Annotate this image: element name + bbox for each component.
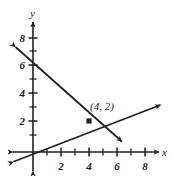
intersection-point-label: (4, 2)	[90, 100, 114, 113]
x-tick-label-2: 2	[57, 160, 64, 172]
steep-line	[16, 47, 122, 142]
y-axis: 2 4 6 8 y	[19, 7, 38, 171]
y-tick-label-2: 2	[19, 115, 26, 127]
y-tick-label-8: 8	[20, 32, 26, 44]
x-tick-label-8: 8	[142, 160, 148, 172]
graph-figure: 2 4 6 8 x 2 4 6 8 y	[0, 0, 173, 179]
x-tick-label-4: 4	[85, 160, 92, 172]
coordinate-plane-svg: 2 4 6 8 x 2 4 6 8 y	[0, 0, 173, 179]
x-axis: 2 4 6 8 x	[13, 146, 167, 172]
intersection-point-marker	[86, 118, 91, 123]
y-tick-label-4: 4	[19, 87, 26, 99]
x-axis-label: x	[161, 146, 167, 158]
shallow-line	[13, 105, 160, 162]
y-tick-label-6: 6	[20, 59, 26, 71]
x-tick-label-6: 6	[114, 160, 120, 172]
y-axis-label: y	[29, 7, 35, 19]
